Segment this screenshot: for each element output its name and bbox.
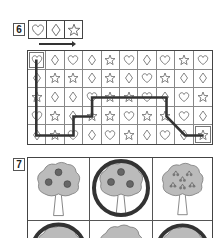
grid-cell <box>83 88 101 107</box>
grid-cell <box>194 88 212 107</box>
heart-icon <box>67 54 79 66</box>
legend-cell <box>65 21 82 38</box>
grid-cell <box>157 70 175 89</box>
heart-icon <box>141 91 153 103</box>
star-icon <box>86 110 98 122</box>
diamond-icon <box>31 72 43 84</box>
tree-cell <box>90 221 153 238</box>
star-icon <box>31 91 43 103</box>
grid-cell <box>194 51 212 70</box>
star-icon <box>178 54 190 66</box>
grid-cell <box>157 125 175 144</box>
grid-cell <box>102 88 120 107</box>
diamond-icon <box>31 129 43 141</box>
grid-cell <box>46 125 64 144</box>
grid-cell <box>138 125 156 144</box>
grid-cell <box>120 88 138 107</box>
heart-icon <box>104 129 116 141</box>
grid-cell <box>102 70 120 89</box>
grid-cell <box>65 70 83 89</box>
grid-cell <box>157 88 175 107</box>
tree-cell <box>153 158 212 221</box>
grid-cell <box>83 107 101 126</box>
heart-icon <box>123 54 135 66</box>
grid-cell <box>138 107 156 126</box>
diamond-icon <box>178 72 190 84</box>
tree-grid <box>27 157 213 238</box>
arrow-right-icon <box>39 43 73 45</box>
diamond-icon <box>141 54 153 66</box>
heart-icon <box>178 91 190 103</box>
grid-cell <box>28 125 46 144</box>
star-icon <box>67 72 79 84</box>
star-icon <box>49 110 61 122</box>
grid-cell <box>65 88 83 107</box>
star-icon <box>197 129 209 141</box>
heart-icon <box>178 110 190 122</box>
grid-cell <box>138 51 156 70</box>
legend-sequence <box>28 20 83 39</box>
heart-icon <box>123 110 135 122</box>
grid-cell <box>175 107 193 126</box>
diamond-icon <box>49 23 63 37</box>
star-icon <box>49 129 61 141</box>
grid-cell <box>175 125 193 144</box>
star-icon <box>104 54 116 66</box>
grid-cell <box>157 107 175 126</box>
grid-cell <box>175 51 193 70</box>
diamond-icon <box>123 72 135 84</box>
grid-cell <box>65 51 83 70</box>
star-icon <box>159 72 171 84</box>
diamond-icon <box>86 54 98 66</box>
grid-cell <box>28 51 46 70</box>
grid-cell <box>102 125 120 144</box>
grid-cell <box>46 88 64 107</box>
grid-cell <box>28 107 46 126</box>
heart-icon <box>141 72 153 84</box>
star-icon <box>49 72 61 84</box>
circled-tree-cell <box>153 221 212 238</box>
diamond-icon <box>67 91 79 103</box>
heart-icon <box>197 54 209 66</box>
grid-cell <box>102 107 120 126</box>
exercise-7-number: 7 <box>13 158 25 171</box>
grid-cell <box>120 70 138 89</box>
grid-cell <box>175 70 193 89</box>
star-icon <box>123 91 135 103</box>
grid-cell <box>28 88 46 107</box>
grid-cell <box>194 107 212 126</box>
grid-cell <box>120 125 138 144</box>
heart-icon <box>67 129 79 141</box>
grid-cell <box>102 51 120 70</box>
grid-cell <box>28 70 46 89</box>
maze-grid <box>27 50 213 145</box>
diamond-icon <box>67 110 79 122</box>
grid-cell <box>65 125 83 144</box>
grid-cell <box>194 70 212 89</box>
legend-cell <box>29 21 47 38</box>
exercise-6-number: 6 <box>13 23 25 36</box>
heart-icon <box>31 54 43 66</box>
grid-cell <box>138 88 156 107</box>
star-icon <box>67 23 81 37</box>
tree-cell <box>28 158 90 221</box>
legend-cell <box>47 21 65 38</box>
star-icon <box>104 72 116 84</box>
grid-cell <box>138 70 156 89</box>
star-icon <box>159 110 171 122</box>
circled-tree-cell <box>90 158 153 221</box>
diamond-icon <box>197 110 209 122</box>
grid-cell <box>194 125 212 144</box>
diamond-icon <box>141 129 153 141</box>
grid-cell <box>46 51 64 70</box>
heart-icon <box>159 54 171 66</box>
grid-cell <box>65 107 83 126</box>
heart-icon <box>31 110 43 122</box>
star-icon <box>197 91 209 103</box>
grid-cell <box>46 70 64 89</box>
grid-cell <box>175 88 193 107</box>
grid-cell <box>120 51 138 70</box>
diamond-icon <box>159 91 171 103</box>
grid-cell <box>83 125 101 144</box>
heart-icon <box>31 23 45 37</box>
